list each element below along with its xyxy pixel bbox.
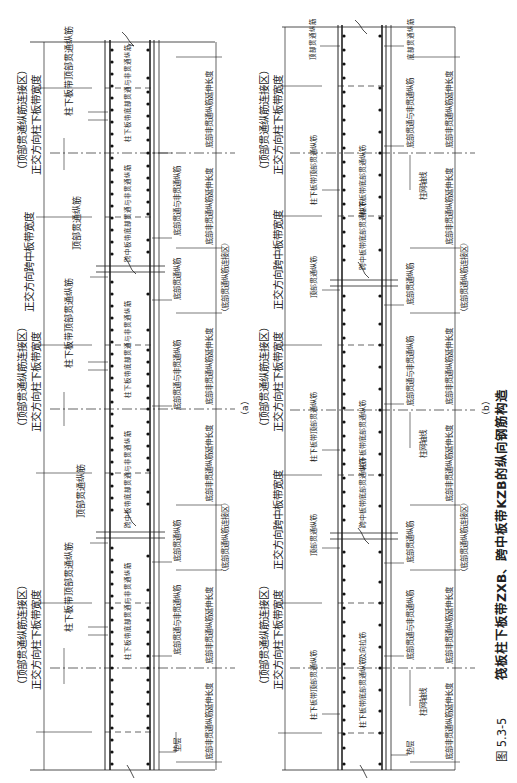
panel-b-caption: （b）: [481, 396, 491, 420]
label-bottom-splice-zone: （底部贯通纵筋连接区）: [459, 239, 469, 316]
label-column-band-top-through: 柱下板带顶部贯通纵筋: [63, 26, 74, 116]
label-span-band-top-through: 顶部贯通纵筋: [75, 464, 86, 518]
label-bottom-extension: 底部非贯通纵筋延伸长度: [444, 586, 454, 664]
label-bottom-extension: 底部非贯通纵筋延伸长度: [444, 682, 454, 760]
label-bottom-through-nonthrough: 底部贯通与非贯通纵筋: [405, 77, 415, 148]
label-top-splice-zone: （顶部贯通纵筋连接区）: [258, 322, 270, 432]
label-bottom-through-nonthrough: 底部贯通与非贯通纵筋: [172, 339, 182, 410]
top-rebar-dots: [342, 34, 345, 765]
bottom-rebar-dots: [146, 48, 149, 765]
label-bottom-splice-zone: （底部贯通纵筋连接区）: [220, 239, 230, 316]
label-top-splice-zone: （顶部贯通纵筋连接区）: [258, 580, 270, 690]
label-column-grid-axis: 柱网轴线: [418, 687, 428, 716]
label-bottom-extension: 底部非贯通纵筋延伸长度: [204, 682, 214, 760]
top-rebar-dots: [110, 48, 113, 765]
label-column-band-bottom: 柱下板带底部贯通与非贯通纵筋: [123, 44, 132, 142]
label-span-band-width: 正交方向跨中板带宽度: [272, 469, 284, 570]
label-bottom-through: 底部贯通纵筋: [172, 257, 182, 300]
label-span-band-bottom: 跨中板带底部贯通与非贯通纵筋: [123, 430, 132, 528]
label-bottom-extension: 底部非贯通纵筋延伸长度: [204, 70, 214, 148]
label-bottom-extension: 底部非贯通纵筋延伸长度: [444, 424, 454, 502]
label-top-through: 顶部贯通纵筋: [309, 514, 318, 556]
label-column-band-bottom: 柱下板带底部贯通与非贯通纵筋: [123, 562, 132, 660]
label-bottom-through: 底部贯通纵筋: [172, 519, 182, 562]
label-span-band-bottom: 跨中板带底部贯通与非贯通纵筋: [123, 164, 132, 262]
label-cushion: 垫层: [405, 740, 415, 755]
label-column-band-width: 正交方向柱下板带宽度: [30, 589, 42, 690]
label-bottom-through: 底部贯通纵筋: [405, 520, 415, 563]
bottom-rebar-dots: [378, 34, 381, 765]
label-bottom-extension: 底部非贯通纵筋延伸长度: [204, 167, 214, 245]
label-column-band-width: 正交方向柱下板带宽度: [272, 331, 284, 432]
label-top-through: 顶部贯通纵筋: [308, 18, 317, 60]
label-bottom-through: 底部贯通纵筋: [405, 262, 415, 305]
label-cushion: 垫层: [172, 737, 182, 752]
label-bottom-extension: 底部非贯通纵筋延伸长度: [204, 424, 214, 502]
label-column-band-top-through: 柱下板带顶部贯通纵筋: [309, 392, 318, 462]
label-transverse-tie: 及向拉筋: [358, 632, 367, 660]
label-column-band-top-through: 柱下板带顶部贯通纵筋: [63, 542, 74, 632]
label-bottom-through-nonthrough: 底部贯通与非贯通纵筋: [405, 335, 415, 406]
panel-b: （顶部贯通纵筋连接区） 正交方向柱下板带宽度 正交方向跨中板带宽度 （顶部贯通纵…: [258, 18, 491, 778]
label-top-through: 顶部贯通纵筋: [309, 256, 318, 298]
label-span-band-width: 正交方向跨中板带宽度: [272, 209, 284, 310]
label-column-grid-axis: 柱网轴线: [418, 429, 428, 458]
label-column-band-width: 正交方向柱下板带宽度: [30, 331, 42, 432]
label-column-band-top-through: 柱下板带顶部贯通纵筋: [63, 278, 74, 368]
label-bottom-extension: 底部非贯通纵筋延伸长度: [444, 327, 454, 405]
label-column-band-width: 正交方向柱下板带宽度: [272, 589, 284, 690]
label-column-band-top-through: 柱下板带顶部贯通纵筋: [309, 650, 318, 720]
label-bottom-through: 底部贯通纵筋: [406, 18, 415, 60]
figure-number: 图 5.3-5: [495, 718, 509, 762]
label-bottom-through-nonthrough: 底部贯通与非贯通纵筋: [172, 584, 182, 655]
label-bottom-splice-zone: （底部贯通纵筋连接区）: [459, 499, 469, 576]
figure-title: 筏板柱下板带ZXB、跨中板带KZB的纵向钢筋构造: [494, 389, 509, 680]
label-span-band-top-through: 顶部贯通纵筋: [71, 196, 82, 250]
label-bottom-extension: 底部非贯通纵筋延伸长度: [204, 586, 214, 664]
label-bottom-splice-zone: （底部贯通纵筋连接区）: [220, 499, 230, 576]
label-top-splice-zone: （顶部贯通纵筋连接区）: [16, 65, 28, 175]
label-span-band-bottom-through: 跨中板带底部贯通纵筋: [358, 458, 367, 528]
label-column-band-width: 正交方向柱下板带宽度: [272, 74, 284, 175]
label-top-splice-zone: （顶部贯通纵筋连接区）: [258, 65, 270, 175]
rebar-diagram-canvas: （顶部贯通纵筋连接区） 正交方向柱下板带宽度 正交方向跨中板带宽度 （顶部贯通纵…: [0, 0, 517, 783]
label-bottom-through-nonthrough: 底部贯通与非贯通纵筋: [405, 589, 415, 660]
label-span-band-bottom-through: 跨中板带底部贯通纵筋: [358, 200, 367, 270]
label-span-band-width: 正交方向跨中板带宽度: [23, 211, 35, 312]
label-top-splice-zone: （顶部贯通纵筋连接区）: [16, 322, 28, 432]
label-top-splice-zone: （顶部贯通纵筋连接区）: [16, 580, 28, 690]
panel-a: （顶部贯通纵筋连接区） 正交方向柱下板带宽度 正交方向跨中板带宽度 （顶部贯通纵…: [16, 26, 250, 778]
label-column-grid-axis: 柱网轴线: [418, 171, 428, 200]
label-bottom-extension: 底部非贯通纵筋延伸长度: [444, 70, 454, 148]
label-bottom-through-nonthrough: 底部贯通与非贯通纵筋: [172, 165, 182, 236]
label-bottom-extension: 底部非贯通纵筋延伸长度: [444, 167, 454, 245]
label-bottom-extension: 底部非贯通纵筋延伸长度: [204, 327, 214, 405]
panel-a-caption: （a）: [240, 396, 250, 420]
label-column-band-width: 正交方向柱下板带宽度: [30, 74, 42, 175]
label-column-band-bottom: 柱下板带底部贯通与非贯通纵筋: [123, 300, 132, 398]
label-column-band-top-through: 柱下板带顶部贯通纵筋: [309, 135, 318, 205]
label-column-band-bottom-through: 柱下板带底部贯通纵筋: [358, 658, 367, 728]
